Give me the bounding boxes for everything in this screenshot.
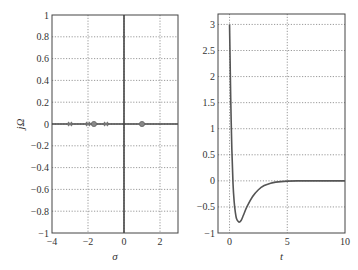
- y-tick-label: −1: [38, 228, 49, 239]
- y-tick-label: 0.4: [37, 75, 50, 86]
- x-tick-label: 0: [227, 236, 232, 247]
- y-tick-label: −0.2: [31, 140, 49, 151]
- y-tick-label: 2: [210, 71, 215, 82]
- y-tick-label: −1: [204, 228, 215, 239]
- y-tick-label: −0.8: [31, 206, 49, 217]
- x-tick-label: 5: [285, 236, 290, 247]
- x-axis-label: t: [280, 250, 284, 262]
- y-tick-label: 1.5: [203, 97, 216, 108]
- x-tick-label: 10: [340, 236, 350, 247]
- axes-frame: [218, 14, 345, 233]
- y-tick-label: 2.5: [203, 45, 216, 56]
- y-tick-label: 0.6: [37, 53, 50, 64]
- y-tick-label: 0.8: [37, 31, 50, 42]
- zero-marker: [91, 121, 96, 126]
- y-tick-label: 0: [44, 119, 49, 130]
- y-tick-label: 0.5: [203, 149, 216, 160]
- x-tick-label: −2: [83, 236, 94, 247]
- pole-zero-plot: −4−202−1−0.8−0.6−0.4−0.200.20.40.60.81σj…: [14, 10, 178, 263]
- grid: [218, 14, 345, 233]
- x-tick-label: 0: [122, 236, 127, 247]
- zero-marker: [139, 121, 144, 126]
- y-tick-label: 3: [210, 19, 215, 30]
- y-axis-label: jΩ: [14, 118, 26, 131]
- impulse-response-plot: 0510−1−0.500.511.522.53t: [197, 14, 350, 262]
- y-tick-label: 1: [210, 123, 215, 134]
- figure: −4−202−1−0.8−0.6−0.4−0.200.20.40.60.81σj…: [0, 0, 358, 270]
- y-tick-label: 0.2: [37, 97, 50, 108]
- y-tick-label: −0.4: [31, 162, 49, 173]
- y-tick-label: −0.6: [31, 184, 49, 195]
- y-tick-label: −0.5: [197, 201, 215, 212]
- y-tick-label: 0: [210, 175, 215, 186]
- y-tick-label: 1: [44, 10, 49, 21]
- x-axis-label: σ: [112, 250, 118, 262]
- x-tick-label: 2: [158, 236, 163, 247]
